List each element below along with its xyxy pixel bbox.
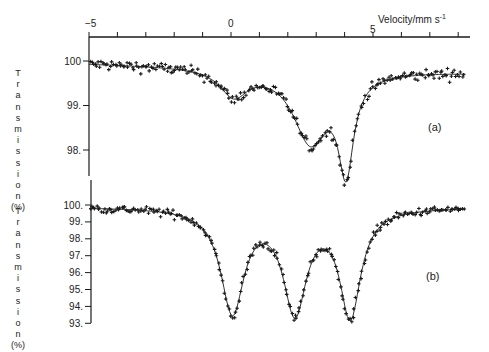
data-point [343, 183, 347, 187]
y-tick-label: 93. [69, 318, 83, 329]
tick-label-5: 5 [370, 24, 376, 35]
data-point [202, 81, 206, 85]
data-point [424, 76, 428, 80]
velocity-axis: −5 0 5 Velocity/mm s-1 [85, 13, 470, 37]
data-point [266, 247, 270, 251]
panel-b: 100.99.98.97.96.95.94.93. (b) [64, 180, 467, 329]
data-point [383, 82, 387, 86]
data-point [446, 67, 450, 71]
data-point [450, 74, 454, 78]
tick-label-0: 0 [228, 18, 234, 29]
data-point [377, 78, 381, 82]
data-point [424, 68, 428, 72]
fit-curve-a [89, 64, 465, 182]
panel-label-a: (a) [428, 121, 441, 133]
y-tick-label: 100 [64, 56, 81, 67]
data-point [173, 218, 177, 222]
data-point [375, 223, 379, 227]
data-point [134, 61, 138, 65]
data-point [196, 67, 200, 71]
data-point [329, 126, 333, 130]
data-point [386, 223, 390, 227]
data-point [102, 211, 106, 215]
y-tick-label: 98. [67, 145, 81, 156]
data-point [94, 62, 98, 66]
data-point [189, 64, 193, 68]
data-point [417, 207, 421, 211]
data-point [367, 95, 371, 99]
panel-label-b: (b) [426, 270, 439, 282]
fit-curve-b [89, 208, 465, 321]
data-point [107, 68, 111, 72]
measured-points-b [89, 204, 466, 323]
data-point [432, 76, 436, 80]
data-point [110, 60, 114, 64]
panel-a: 10099.98. (a) [64, 37, 465, 187]
y-tick-label: 96. [69, 267, 83, 278]
data-point [325, 135, 329, 139]
data-point [370, 80, 374, 84]
data-point [139, 72, 143, 76]
data-point [258, 241, 262, 245]
data-point [95, 204, 99, 208]
measured-points-a [89, 60, 466, 187]
data-point [242, 96, 246, 100]
data-point [171, 208, 175, 212]
data-point [230, 100, 234, 104]
y-tick-label: 98. [69, 233, 83, 244]
y-tick-label: 99. [69, 216, 83, 227]
data-point [448, 81, 452, 85]
data-point [240, 98, 244, 102]
data-point [147, 69, 151, 73]
data-point [366, 98, 370, 102]
velocity-axis-title: Velocity/mm s-1 [378, 13, 446, 25]
y-tick-label: 95. [69, 284, 83, 295]
data-point [125, 61, 129, 65]
data-point [239, 91, 243, 95]
data-point [438, 76, 442, 80]
data-point [153, 62, 157, 66]
data-point [122, 65, 126, 69]
data-point [233, 101, 237, 105]
data-point [98, 66, 102, 70]
data-point [164, 63, 168, 67]
data-point [159, 215, 163, 219]
tick-label-minus5: −5 [85, 18, 97, 29]
data-point [328, 247, 332, 251]
y-tick-label: 97. [69, 250, 83, 261]
data-point [166, 69, 170, 73]
data-point [233, 316, 237, 320]
data-point [147, 211, 151, 215]
y-tick-label: 94. [69, 301, 83, 312]
data-point [292, 318, 296, 322]
y-tick-label: 100. [64, 200, 83, 211]
data-point [275, 251, 279, 255]
y-tick-label: 99. [67, 100, 81, 111]
data-point [459, 70, 463, 74]
